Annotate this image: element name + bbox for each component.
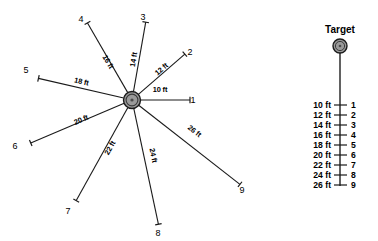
target-hub: [124, 92, 141, 109]
legend-row-7: 22 ft7: [313, 160, 356, 170]
ray-endcap-5: [38, 75, 39, 81]
ray-number-8: 8: [155, 228, 160, 238]
legend-row-6: 20 ft6: [313, 150, 356, 160]
legend-distance-6: 20 ft: [313, 150, 331, 160]
ray-5: 18 ft5: [23, 65, 123, 98]
ray-number-2: 2: [187, 47, 192, 57]
ray-distance-label-9: 26 ft: [186, 123, 204, 140]
diagram-canvas: 10 ft112 ft214 ft316 ft418 ft520 ft622 f…: [0, 0, 378, 241]
legend-row-3: 14 ft3: [313, 120, 356, 130]
rays-group: 10 ft112 ft214 ft316 ft418 ft520 ft622 f…: [12, 12, 244, 238]
ray-8: 24 ft8: [134, 108, 162, 238]
legend-target-center-dot: [339, 45, 342, 48]
legend-distance-5: 18 ft: [313, 140, 331, 150]
legend-distance-3: 14 ft: [313, 120, 331, 130]
legend-number-9: 9: [351, 180, 356, 190]
ray-3: 14 ft3: [128, 12, 149, 92]
ray-number-3: 3: [140, 12, 145, 22]
legend-number-8: 8: [351, 170, 356, 180]
radial-distance-diagram: 10 ft112 ft214 ft316 ft418 ft520 ft622 f…: [0, 0, 378, 241]
legend-distance-9: 26 ft: [313, 180, 331, 190]
legend-number-3: 3: [351, 120, 356, 130]
ray-distance-label-6: 20 ft: [72, 112, 90, 126]
ray-distance-label-2: 12 ft: [153, 60, 170, 77]
ray-endcap-8: [155, 224, 161, 225]
ray-number-1: 1: [190, 95, 195, 105]
legend-title: Target: [325, 24, 355, 35]
ray-line-9: [139, 105, 240, 184]
legend-row-2: 12 ft2: [313, 110, 356, 120]
ray-distance-label-5: 18 ft: [73, 76, 90, 88]
legend-distance-4: 16 ft: [313, 130, 331, 140]
legend-row-9: 26 ft9: [313, 180, 356, 190]
hub-center-dot: [130, 98, 133, 101]
legend-distance-2: 12 ft: [313, 110, 331, 120]
legend-distance-1: 10 ft: [313, 100, 331, 110]
legend-row-1: 10 ft1: [313, 100, 356, 110]
ray-distance-label-1: 10 ft: [153, 85, 168, 94]
ray-distance-label-7: 22 ft: [102, 139, 117, 157]
ray-endcap-4: [85, 21, 91, 24]
ray-number-5: 5: [23, 65, 28, 75]
legend-distance-8: 24 ft: [313, 170, 331, 180]
ray-1: 10 ft1: [141, 85, 196, 105]
ray-number-7: 7: [65, 206, 70, 216]
legend-distance-7: 22 ft: [313, 160, 331, 170]
ray-distance-label-8: 24 ft: [148, 147, 160, 164]
ray-number-6: 6: [12, 141, 17, 151]
ray-line-8: [134, 108, 159, 224]
legend-number-4: 4: [351, 130, 356, 140]
legend-number-7: 7: [351, 160, 356, 170]
legend-number-1: 1: [351, 100, 356, 110]
legend-number-5: 5: [351, 140, 356, 150]
legend-number-6: 6: [351, 150, 356, 160]
ray-number-4: 4: [78, 14, 83, 24]
legend-row-8: 24 ft8: [313, 170, 356, 180]
legend-number-2: 2: [351, 110, 356, 120]
legend-row-5: 18 ft5: [313, 140, 356, 150]
legend-row-4: 16 ft4: [313, 130, 356, 140]
legend-group: 10 ft112 ft214 ft316 ft418 ft520 ft622 f…: [313, 39, 356, 190]
ray-number-9: 9: [239, 185, 244, 195]
